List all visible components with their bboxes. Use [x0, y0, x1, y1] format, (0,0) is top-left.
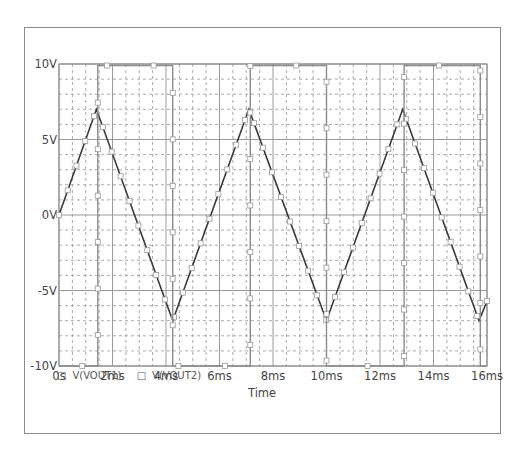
data-point-marker — [170, 230, 175, 235]
data-point-marker — [252, 121, 257, 126]
data-point-marker — [163, 297, 168, 302]
x-tick-label: 10ms — [311, 369, 343, 383]
data-point-marker — [478, 115, 483, 120]
legend-label: V(VOUT1) — [72, 370, 121, 381]
data-point-marker — [402, 75, 407, 80]
data-point-marker — [402, 261, 407, 266]
legend-item-vout2[interactable]: □V(VOUT2) — [137, 370, 207, 381]
data-point-marker — [248, 64, 253, 69]
data-point-marker — [324, 79, 329, 84]
data-point-marker — [478, 208, 483, 213]
data-point-marker — [402, 354, 407, 359]
data-point-marker — [57, 213, 62, 218]
legend-marker-icon: □ — [57, 370, 66, 381]
data-point-marker — [80, 364, 85, 369]
data-point-marker — [413, 141, 418, 146]
x-tick-label: 14ms — [418, 369, 450, 383]
data-point-marker — [127, 198, 132, 203]
data-point-marker — [315, 293, 320, 298]
data-point-marker — [248, 203, 253, 208]
data-point-marker — [324, 172, 329, 177]
data-point-marker — [395, 122, 400, 127]
data-point-marker — [95, 240, 100, 245]
y-tick-label: 5V — [42, 133, 57, 147]
legend-marker-icon: □ — [137, 370, 146, 381]
data-point-marker — [324, 312, 329, 317]
data-point-marker — [294, 63, 299, 68]
data-point-marker — [136, 223, 141, 228]
data-point-marker — [105, 63, 110, 68]
data-point-marker — [91, 114, 96, 119]
data-point-marker — [478, 68, 483, 73]
data-point-marker — [279, 194, 284, 199]
data-point-marker — [248, 342, 253, 347]
data-point-marker — [74, 163, 79, 168]
data-point-marker — [248, 110, 253, 115]
data-point-marker — [439, 215, 444, 220]
data-point-marker — [65, 188, 70, 193]
legend: □V(VOUT1) □V(VOUT2) — [57, 370, 213, 381]
data-point-marker — [151, 63, 156, 68]
data-point-marker — [402, 168, 407, 173]
data-point-marker — [154, 272, 159, 277]
data-point-marker — [170, 323, 175, 328]
data-point-marker — [402, 214, 407, 219]
data-point-marker — [333, 294, 338, 299]
data-point-marker — [324, 265, 329, 270]
data-point-marker — [368, 196, 373, 201]
data-point-marker — [324, 219, 329, 224]
data-point-marker — [457, 264, 462, 269]
data-point-marker — [234, 142, 239, 147]
data-point-marker — [176, 364, 181, 369]
data-point-marker — [365, 364, 370, 369]
data-point-marker — [478, 300, 483, 305]
data-point-marker — [109, 149, 114, 154]
data-point-marker — [386, 147, 391, 152]
data-point-marker — [402, 307, 407, 312]
data-point-marker — [222, 364, 227, 369]
data-point-marker — [377, 171, 382, 176]
data-point-marker — [243, 118, 248, 123]
data-point-marker — [430, 190, 435, 195]
data-point-marker — [466, 289, 471, 294]
x-tick-label: 16ms — [471, 369, 503, 383]
data-point-marker — [436, 63, 441, 68]
data-point-marker — [475, 314, 480, 319]
data-point-marker — [421, 166, 426, 171]
data-point-marker — [95, 147, 100, 152]
data-point-marker — [341, 270, 346, 275]
legend-item-vout1[interactable]: □V(VOUT1) — [57, 370, 131, 381]
data-point-marker — [198, 241, 203, 246]
y-tick-label: -5V — [38, 284, 57, 298]
data-point-marker — [448, 240, 453, 245]
data-point-marker — [95, 193, 100, 198]
data-point-marker — [170, 90, 175, 95]
data-point-marker — [83, 138, 88, 143]
data-point-marker — [478, 161, 483, 166]
x-tick-label: 8ms — [261, 369, 286, 383]
data-point-marker — [118, 174, 123, 179]
data-point-marker — [216, 192, 221, 197]
y-tick-label: 0V — [42, 208, 57, 222]
data-point-marker — [248, 249, 253, 254]
data-point-marker — [180, 290, 185, 295]
data-point-marker — [297, 244, 302, 249]
data-point-marker — [100, 125, 105, 130]
data-point-marker — [478, 254, 483, 259]
x-tick-label: 12ms — [364, 369, 396, 383]
data-point-marker — [207, 216, 212, 221]
data-point-marker — [170, 183, 175, 188]
data-point-marker — [485, 299, 490, 304]
data-point-marker — [170, 137, 175, 142]
data-point-marker — [359, 220, 364, 225]
data-point-marker — [402, 121, 407, 126]
data-point-marker — [95, 286, 100, 291]
data-point-marker — [350, 245, 355, 250]
data-point-marker — [145, 248, 150, 253]
data-point-marker — [189, 265, 194, 270]
data-point-marker — [95, 100, 100, 105]
data-point-marker — [324, 358, 329, 363]
data-point-marker — [225, 167, 230, 172]
data-point-marker — [95, 333, 100, 338]
data-point-marker — [288, 219, 293, 224]
